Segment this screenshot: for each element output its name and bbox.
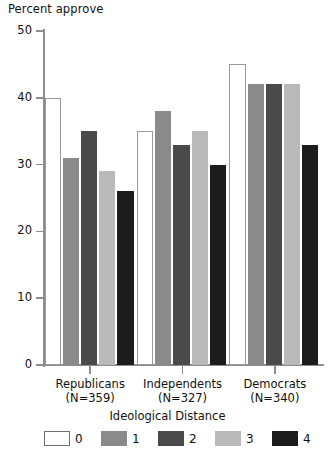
swatch-medium-gray-icon	[101, 431, 127, 446]
x-tick-mark	[274, 366, 276, 374]
legend-title: Ideological Distance	[0, 409, 335, 423]
y-tick-mark	[36, 231, 44, 233]
legend-item-4[interactable]: 4	[272, 430, 318, 450]
group-label-name: Republicans	[55, 377, 124, 391]
bar-democrats-distance-1	[248, 84, 264, 365]
legend-item-1[interactable]: 1	[101, 430, 147, 450]
legend-item-label: 4	[303, 432, 311, 446]
legend-item-3[interactable]: 3	[215, 430, 261, 450]
plot-area	[44, 31, 321, 365]
bar-republicans-distance-2	[81, 131, 97, 365]
legend-item-0[interactable]: 0	[44, 430, 90, 450]
bar-chart: Percent approve 50403020100 Republicans(…	[0, 0, 335, 459]
swatch-black-icon	[272, 431, 298, 446]
legend-item-label: 3	[246, 432, 254, 446]
y-tick-mark	[36, 30, 44, 32]
legend: 01234	[0, 430, 335, 450]
bar-democrats-distance-0	[229, 64, 245, 365]
y-tick-mark	[36, 297, 44, 299]
y-tick-mark	[36, 364, 44, 366]
group-label-count: (N=340)	[215, 391, 335, 405]
swatch-white-icon	[44, 431, 70, 446]
bar-republicans-distance-1	[63, 158, 79, 365]
bar-independents-distance-4	[210, 165, 226, 365]
y-tick-mark	[36, 164, 44, 166]
bar-republicans-distance-4	[117, 191, 133, 365]
bar-republicans-distance-0	[45, 98, 61, 365]
y-tick-label: 50	[0, 25, 32, 37]
bar-democrats-distance-2	[266, 84, 282, 365]
bar-independents-distance-1	[155, 111, 171, 365]
bar-republicans-distance-3	[99, 171, 115, 365]
bar-independents-distance-0	[137, 131, 153, 365]
swatch-dark-gray-icon	[158, 431, 184, 446]
x-tick-mark	[182, 366, 184, 374]
x-tick-mark	[89, 366, 91, 374]
y-tick-label: 20	[0, 225, 32, 237]
bar-independents-distance-3	[192, 131, 208, 365]
legend-item-label: 2	[189, 432, 197, 446]
legend-item-label: 0	[75, 432, 83, 446]
y-tick-label: 0	[0, 359, 32, 371]
legend-item-2[interactable]: 2	[158, 430, 204, 450]
y-tick-label: 30	[0, 159, 32, 171]
group-label-name: Independents	[143, 377, 222, 391]
y-axis-title: Percent approve	[8, 2, 103, 16]
group-label-name: Democrats	[243, 377, 306, 391]
y-tick-label: 40	[0, 92, 32, 104]
y-tick-mark	[36, 97, 44, 99]
bar-independents-distance-2	[173, 145, 189, 365]
legend-item-label: 1	[132, 432, 140, 446]
bar-democrats-distance-3	[284, 84, 300, 365]
bar-democrats-distance-4	[302, 145, 318, 365]
y-tick-label: 10	[0, 292, 32, 304]
swatch-light-gray-icon	[215, 431, 241, 446]
group-label-democrats: Democrats(N=340)	[215, 377, 335, 405]
